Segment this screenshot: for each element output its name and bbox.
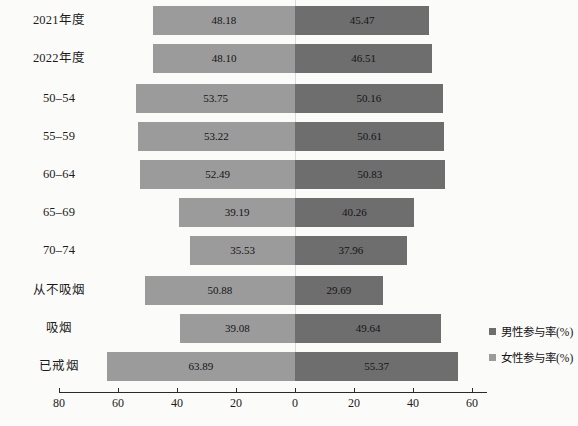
bar-value-female: 39.19 — [179, 198, 295, 227]
bar-value-female: 39.08 — [180, 314, 295, 343]
bar-value-female: 53.22 — [138, 122, 295, 151]
bar-value-female: 35.53 — [190, 236, 295, 265]
diverging-bar-chart: 2021年度48.1845.472022年度48.1046.5150–5453.… — [0, 0, 578, 426]
bar-value-female: 53.75 — [136, 84, 295, 113]
legend-item-female[interactable]: 女性参与率(%) — [489, 344, 575, 370]
legend-swatch-male-icon — [489, 328, 496, 335]
axis-tick — [118, 388, 119, 393]
category-label: 50–54 — [0, 84, 118, 113]
axis-tick-label: 0 — [275, 396, 315, 411]
bar-value-female: 48.10 — [153, 44, 295, 73]
bar-value-female: 50.88 — [145, 276, 295, 305]
bar-row: 50–5453.7550.16 — [0, 84, 578, 113]
axis-tick-label: 40 — [393, 396, 433, 411]
legend-label-female: 女性参与率(%) — [501, 349, 573, 365]
axis-tick-label: 20 — [334, 396, 374, 411]
bar-row: 2022年度48.1046.51 — [0, 44, 578, 73]
bar-value-male: 29.69 — [295, 276, 383, 305]
axis-tick — [236, 388, 237, 393]
bar-value-female: 48.18 — [153, 6, 295, 35]
axis-tick-label: 20 — [216, 396, 256, 411]
axis-tick — [295, 388, 296, 393]
category-label: 65–69 — [0, 198, 118, 227]
category-label: 55–59 — [0, 122, 118, 151]
legend-label-male: 男性参与率(%) — [501, 323, 573, 339]
category-label: 60–64 — [0, 160, 118, 189]
axis-tick — [177, 388, 178, 393]
axis-tick-label: 80 — [39, 396, 79, 411]
x-axis: 806040200204060 — [0, 388, 578, 426]
bar-row: 60–6452.4950.83 — [0, 160, 578, 189]
bar-row: 70–7435.5337.96 — [0, 236, 578, 265]
axis-tick — [354, 388, 355, 393]
axis-tick — [472, 388, 473, 393]
bar-value-male: 46.51 — [295, 44, 432, 73]
bar-value-male: 55.37 — [295, 352, 458, 381]
legend-swatch-female-icon — [489, 354, 496, 361]
axis-tick-label: 40 — [157, 396, 197, 411]
bar-value-male: 50.61 — [295, 122, 444, 151]
category-label: 2021年度 — [0, 6, 118, 35]
chart-legend: 男性参与率(%) 女性参与率(%) — [489, 318, 575, 370]
axis-tick-label: 60 — [98, 396, 138, 411]
axis-tick — [59, 388, 60, 393]
bar-row: 2021年度48.1845.47 — [0, 6, 578, 35]
bar-value-male: 50.83 — [295, 160, 445, 189]
axis-tick-label: 60 — [452, 396, 492, 411]
x-axis-line — [60, 392, 487, 393]
bar-row: 65–6939.1940.26 — [0, 198, 578, 227]
axis-tick — [413, 388, 414, 393]
category-label: 从不吸烟 — [0, 276, 118, 305]
bar-value-male: 40.26 — [295, 198, 414, 227]
legend-item-male[interactable]: 男性参与率(%) — [489, 318, 575, 344]
bar-value-male: 37.96 — [295, 236, 407, 265]
bar-value-female: 63.89 — [107, 352, 295, 381]
bar-value-male: 45.47 — [295, 6, 429, 35]
bar-row: 55–5953.2250.61 — [0, 122, 578, 151]
category-label: 2022年度 — [0, 44, 118, 73]
bar-value-female: 52.49 — [140, 160, 295, 189]
bar-value-male: 50.16 — [295, 84, 443, 113]
bar-value-male: 49.64 — [295, 314, 441, 343]
category-label: 70–74 — [0, 236, 118, 265]
category-label: 已戒烟 — [0, 352, 118, 381]
bar-row: 从不吸烟50.8829.69 — [0, 276, 578, 305]
category-label: 吸烟 — [0, 314, 118, 343]
